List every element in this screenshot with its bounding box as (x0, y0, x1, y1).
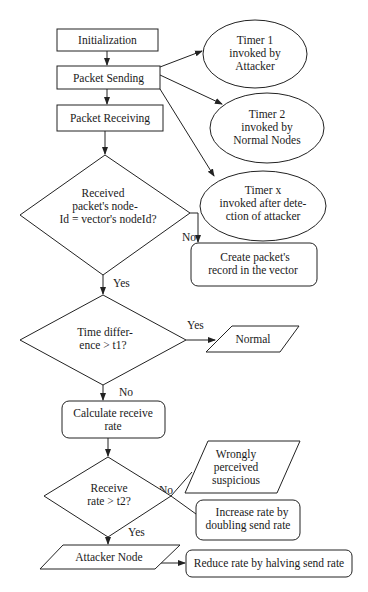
edge-send-timerx (160, 89, 214, 176)
node-timer-1: Timer 1 invoked by Attacker (203, 20, 307, 88)
node-label: rate (104, 420, 121, 432)
node-label: Packet Sending (73, 72, 144, 85)
node-wrongly-perceived: Wrongly perceived suspicious (185, 441, 300, 493)
node-label: Increase rate by (216, 506, 289, 519)
node-label: ence > t1? (79, 339, 126, 351)
edge-dec3-increase (171, 496, 196, 514)
node-label: doubling send rate (206, 519, 291, 532)
flowchart-canvas: No Yes Yes No No Yes Initialization Pack… (0, 0, 368, 592)
edge-label-yes: Yes (128, 526, 145, 538)
node-decision-time-difference: Time differ- ence > t1? (20, 295, 186, 385)
node-label: packet's node- (72, 200, 138, 213)
node-label: suspicious (212, 474, 260, 487)
node-attacker: Attacker Node (40, 545, 180, 569)
node-label: ction of attacker (226, 210, 301, 222)
node-calculate-receive-rate: Calculate receive rate (62, 401, 165, 438)
edge-label-no: No (119, 386, 133, 398)
node-decision-receive-rate: Receive rate > t2? (44, 457, 171, 537)
node-packet-sending: Packet Sending (57, 66, 160, 89)
node-label: Timer x (245, 184, 282, 196)
edge-label-yes: Yes (187, 319, 204, 331)
node-label: Timer 2 (249, 108, 286, 120)
node-label: record in the vector (208, 264, 298, 276)
node-normal: Normal (206, 326, 299, 352)
node-label: Normal Nodes (233, 134, 301, 146)
node-label: Normal (235, 333, 270, 345)
node-label: invoked after dete- (220, 197, 307, 209)
node-packet-receiving: Packet Receiving (57, 105, 163, 131)
node-timer-x: Timer x invoked after dete- ction of att… (200, 171, 326, 241)
node-create-record: Create packet's record in the vector (191, 243, 317, 286)
node-label: Packet Receiving (70, 112, 150, 125)
node-increase-rate: Increase rate by doubling send rate (196, 500, 300, 540)
node-decision-node-id-match: Received packet's node- Id = vector's no… (20, 155, 190, 275)
edge-send-timer1 (160, 51, 202, 67)
edge-label-yes: Yes (113, 277, 130, 289)
node-label: Initialization (78, 34, 137, 46)
node-label: Time differ- (77, 326, 133, 338)
node-label: Attacker (235, 60, 275, 72)
node-label: perceived (214, 461, 259, 474)
edge-send-timer2 (160, 75, 222, 104)
node-label: Id = vector's nodeId? (59, 213, 156, 225)
node-label: Received (82, 187, 125, 199)
edge-label-no: No (182, 231, 196, 243)
node-initialization: Initialization (57, 29, 158, 51)
node-label: Timer 1 (237, 34, 274, 46)
node-label: Receive (90, 482, 127, 494)
node-label: invoked by (241, 121, 293, 134)
node-label: invoked by (229, 47, 281, 60)
node-reduce-rate: Reduce rate by halving send rate (186, 550, 352, 577)
node-label: Reduce rate by halving send rate (194, 557, 344, 570)
node-label: Attacker Node (75, 551, 142, 563)
node-label: Calculate receive (73, 407, 153, 419)
node-label: Create packet's (220, 251, 290, 264)
node-label: rate > t2? (87, 495, 131, 507)
node-label: Wrongly (216, 448, 257, 461)
node-timer-2: Timer 2 invoked by Normal Nodes (210, 93, 324, 163)
